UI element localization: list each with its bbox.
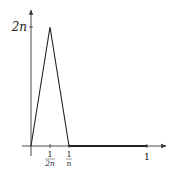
tick2-numerator: 1: [66, 150, 71, 159]
tent-function-diagram: 2n 1 2n 1 n 1: [0, 0, 174, 173]
tick2-denominator: n: [67, 159, 72, 168]
tick1-denominator: 2n: [44, 159, 55, 168]
tick1-numerator: 1: [47, 150, 52, 159]
tent-curve: [31, 27, 69, 146]
y-peak-label: 2n: [11, 20, 27, 34]
x-end-label: 1: [144, 151, 150, 162]
